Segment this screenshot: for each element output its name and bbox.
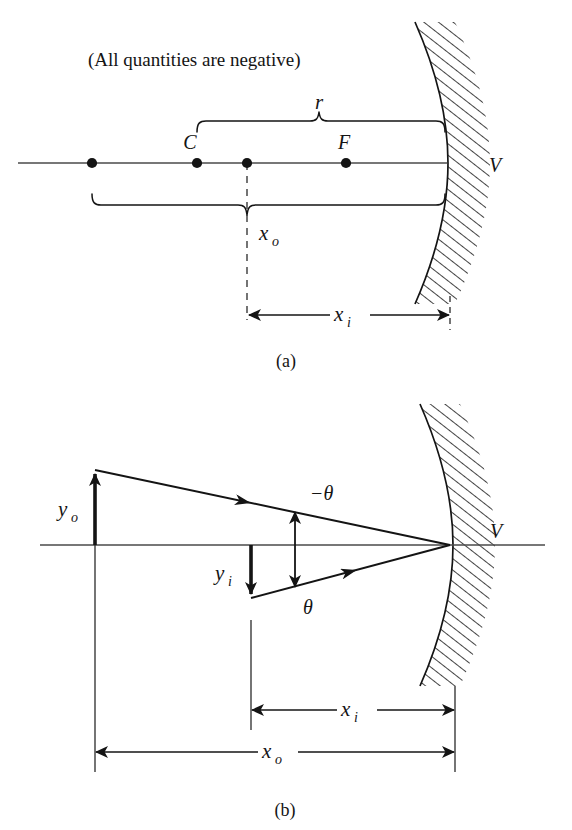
label-xo-main-a: x [258,221,269,245]
axis-point-focal-point [341,158,351,168]
label-xo-sub-a: o [272,234,279,249]
label-angle-theta: θ [303,596,313,618]
label-xi-sub-b: i [354,710,358,725]
note-all-quantities-negative: (All quantities are negative) [88,49,301,71]
label-xi-main-a: x [333,302,344,326]
axis-point-far-left [87,158,97,168]
label-focal-point-F: F [337,131,351,153]
caption-panel-a: (a) [276,351,296,372]
brace-object-distance-xo [92,194,445,215]
label-r: r [315,90,324,114]
brace-radius-r [197,112,445,132]
label-vertex-V-a: V [489,154,504,176]
figure-root: r C F V x o x i (All quantities are nega… [0,0,572,830]
panel-b: y o y i −θ θ V x i [40,404,545,821]
label-object-distance-xo-a: x o [258,221,279,249]
axis-point-virtual-object [242,158,252,168]
label-image-height-yi: y i [213,561,232,589]
label-xi-sub-a: i [347,315,351,330]
reflected-ray [251,545,450,598]
incident-ray [95,470,450,545]
label-yo-main: y [56,497,68,521]
label-yi-sub: i [228,574,232,589]
label-xi-main-b: x [340,697,351,721]
label-object-height-yo: y o [56,497,78,525]
panel-a: r C F V x o x i (All quantities are nega… [18,22,504,372]
caption-panel-b: (b) [275,800,296,821]
label-xo-main-b: x [261,739,272,763]
label-yi-main: y [213,561,225,585]
label-xo-sub-b: o [275,752,282,767]
axis-point-center-of-curvature [192,158,202,168]
label-center-of-curvature-C: C [183,131,197,153]
label-yo-sub: o [71,510,78,525]
optics-figure-canvas: r C F V x o x i (All quantities are nega… [0,0,572,830]
label-angle-negative-theta: −θ [310,482,333,504]
label-vertex-V-b: V [490,520,505,542]
